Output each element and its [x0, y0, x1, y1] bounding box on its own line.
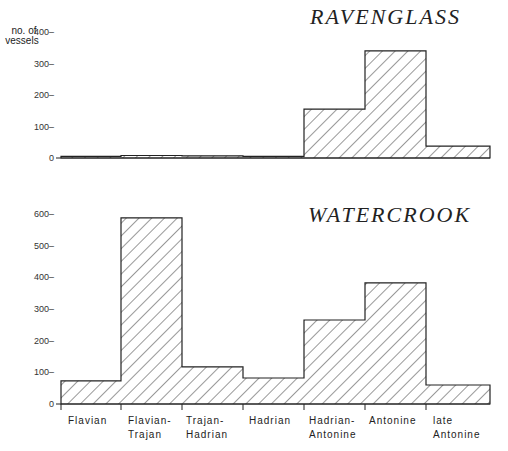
- y-tick-label: 300–: [34, 59, 54, 69]
- histogram-bars: [61, 218, 490, 404]
- y-tick-label: 200–: [34, 90, 54, 100]
- x-category-label: Flavian: [68, 415, 107, 426]
- x-category-label: Trajan-: [186, 415, 224, 426]
- chart-title: RAVENGLASS: [309, 4, 461, 29]
- y-tick-label: 200–: [34, 336, 54, 346]
- x-category-label: Hadrian: [249, 415, 291, 426]
- x-category-label: Trajan: [128, 429, 162, 440]
- x-category-label: Antonine: [433, 429, 480, 440]
- y-tick-label: 600–: [34, 209, 54, 219]
- y-tick-label: 100–: [34, 122, 54, 132]
- y-tick-label: 100–: [34, 367, 54, 377]
- y-tick-label: 300–: [34, 304, 54, 314]
- x-category-label: Antonine: [309, 429, 356, 440]
- y-tick-label: 0: [49, 399, 54, 409]
- y-axis-label: vessels: [5, 35, 38, 46]
- x-category-label: Antonine: [369, 415, 416, 426]
- y-tick-label: 400–: [34, 272, 54, 282]
- histogram-bars: [61, 51, 490, 158]
- y-tick-label: 500–: [34, 241, 54, 251]
- x-category-label: Hadrian: [186, 429, 228, 440]
- x-category-label: late: [433, 415, 453, 426]
- y-tick-label: 0: [49, 153, 54, 163]
- chart-figure: 0100–200–300–400–no. ofvesselsRAVENGLASS…: [0, 0, 508, 451]
- x-category-label: Flavian-: [128, 415, 172, 426]
- x-category-label: Hadrian-: [309, 415, 355, 426]
- watercrook-chart: 0100–200–300–400–500–600–WATERCROOKFlavi…: [34, 202, 490, 440]
- ravenglass-chart: 0100–200–300–400–no. ofvesselsRAVENGLASS: [5, 4, 490, 163]
- chart-title: WATERCROOK: [308, 202, 471, 227]
